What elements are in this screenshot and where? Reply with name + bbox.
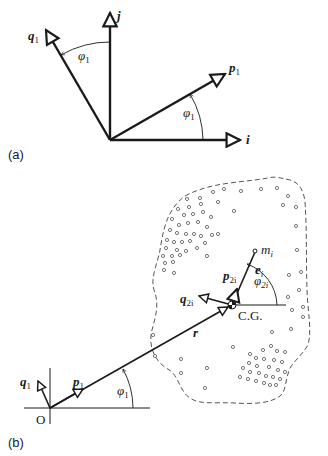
mass-particle bbox=[253, 249, 257, 253]
rigid-body-frames-diagram: j i p1 q1 φ1 φ1 (a) bbox=[0, 0, 328, 456]
i-label: i bbox=[246, 132, 250, 147]
q1-axis bbox=[46, 30, 110, 140]
rigid-body-outline bbox=[151, 177, 310, 403]
center-of-gravity-icon bbox=[228, 301, 236, 309]
p1-label: p1 bbox=[72, 374, 84, 391]
particle-dots bbox=[151, 186, 304, 389]
q1-label: q1 bbox=[28, 28, 39, 45]
phi1-label: φ1 bbox=[117, 383, 129, 400]
p2i-label: p2i bbox=[222, 268, 237, 285]
panel-a-label: (a) bbox=[8, 147, 24, 162]
j-label: j bbox=[115, 8, 121, 23]
panel-b-label: (b) bbox=[8, 435, 24, 450]
phi1-arc-top bbox=[61, 42, 110, 55]
panel-a: j i p1 q1 φ1 φ1 (a) bbox=[8, 8, 250, 162]
q2i-vector bbox=[199, 296, 232, 305]
q1-label: q1 bbox=[20, 374, 31, 391]
origin-label: O bbox=[36, 412, 45, 427]
phi1-label-right: φ1 bbox=[183, 105, 195, 122]
q1-vector bbox=[38, 381, 50, 408]
phi1-label-top: φ1 bbox=[78, 48, 90, 65]
q2i-label: q2i bbox=[180, 291, 194, 308]
r-label: r bbox=[193, 325, 199, 340]
panel-b: q1 p1 φ1 O r C.G. q2i p2i ei mi φ2i (b) bbox=[8, 177, 310, 450]
phi1-arc bbox=[123, 369, 133, 408]
p1-label: p1 bbox=[228, 60, 240, 77]
p1-vector bbox=[50, 389, 83, 408]
p1-axis bbox=[110, 74, 225, 140]
mi-label: mi bbox=[261, 242, 273, 259]
cg-label: C.G. bbox=[238, 308, 263, 323]
